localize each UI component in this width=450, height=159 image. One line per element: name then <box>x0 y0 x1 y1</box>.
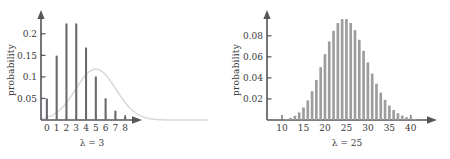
right-y-tick-label: 0.06 <box>243 52 263 62</box>
left-x-tick-label: 1 <box>54 123 60 133</box>
right-chart-svg: 0.020.040.060.08 10152025303540 probabil… <box>225 0 450 159</box>
right-x-tick-label: 35 <box>384 123 396 133</box>
left-x-tick-label: 4 <box>83 123 89 133</box>
right-bar <box>315 80 318 120</box>
right-x-tick-label: 10 <box>276 123 288 133</box>
right-x-tick-label: 30 <box>362 123 374 133</box>
right-x-axis-arrowhead <box>427 116 437 124</box>
right-bar <box>392 110 395 120</box>
right-y-axis-arrowhead <box>263 10 270 19</box>
right-bar <box>324 54 327 120</box>
right-bar <box>332 31 335 120</box>
right-x-tick-label: 15 <box>298 123 310 133</box>
right-bar <box>311 91 314 120</box>
left-y-tick-label: 0.1 <box>23 72 37 82</box>
right-bar <box>384 100 387 120</box>
chart-panel-lambda-25: 0.020.040.060.08 10152025303540 probabil… <box>225 0 450 159</box>
right-bar <box>319 67 322 120</box>
right-bar <box>289 118 292 120</box>
left-x-tick-label: 3 <box>73 123 79 133</box>
left-x-axis-arrowhead <box>132 116 142 124</box>
left-y-tick-label: 0.05 <box>17 94 37 104</box>
right-x-tick-label: 40 <box>405 123 417 133</box>
left-x-tick-label: 2 <box>64 123 70 133</box>
right-y-tick-label: 0.04 <box>243 73 263 83</box>
right-bar <box>379 93 382 120</box>
right-bar <box>294 116 297 120</box>
right-bar <box>405 117 408 120</box>
right-bar <box>358 40 361 120</box>
left-x-tick-label: 6 <box>103 123 109 133</box>
left-chart-svg: 0.050.10.150.2 012345678 probability λ =… <box>0 0 225 159</box>
right-bar <box>371 74 374 120</box>
left-y-tick-label: 0.2 <box>23 29 37 39</box>
poisson-pmf-figure: 0.050.10.150.2 012345678 probability λ =… <box>0 0 450 159</box>
left-y-axis-title: probability <box>6 43 16 96</box>
right-bar <box>349 23 352 120</box>
right-x-tick-label: 25 <box>341 123 353 133</box>
left-x-tick-label: 5 <box>93 123 99 133</box>
right-x-tick-label: 20 <box>319 123 331 133</box>
right-bar <box>410 118 413 120</box>
right-bar <box>401 116 404 120</box>
right-y-tick-label: 0.02 <box>243 94 263 104</box>
right-y-axis-title: probability <box>231 43 241 96</box>
right-bar <box>285 119 288 120</box>
right-bar <box>341 19 344 120</box>
right-x-axis-title: λ = 25 <box>332 138 363 148</box>
left-y-axis-arrowhead <box>37 10 44 19</box>
left-x-axis-title: λ = 3 <box>80 138 105 148</box>
left-x-tick-label: 8 <box>122 123 128 133</box>
right-bar <box>362 51 365 120</box>
right-y-tick-label: 0.08 <box>243 31 263 41</box>
right-bar <box>388 106 391 120</box>
right-bar <box>414 119 417 120</box>
right-bar <box>302 107 305 120</box>
right-bar <box>337 23 340 120</box>
chart-panel-lambda-3: 0.050.10.150.2 012345678 probability λ =… <box>0 0 225 159</box>
right-bar <box>328 41 331 120</box>
right-bar <box>367 62 370 120</box>
left-x-tick-label: 0 <box>44 123 50 133</box>
left-y-tick-label: 0.15 <box>17 51 37 61</box>
right-bar <box>298 112 301 120</box>
left-x-tick-label: 7 <box>113 123 119 133</box>
right-bar <box>306 100 309 120</box>
right-bar <box>354 30 357 120</box>
right-bar <box>375 84 378 120</box>
left-bar-group <box>47 23 125 120</box>
right-bar-group <box>276 19 416 120</box>
right-bar <box>345 19 348 120</box>
right-bar <box>397 113 400 120</box>
